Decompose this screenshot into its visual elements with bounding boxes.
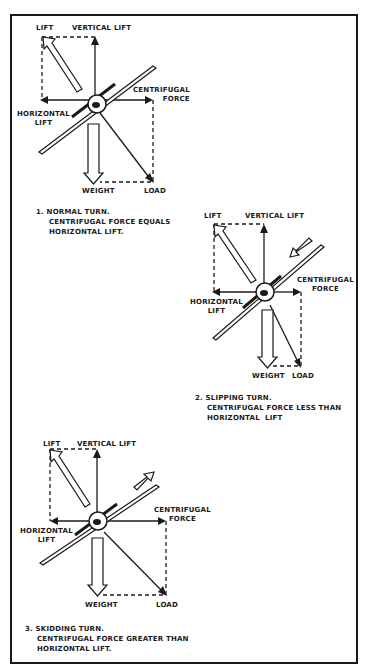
caption-skidding-turn-line2: CENTRIFUGAL FORCE GREATER THAN bbox=[37, 635, 189, 645]
caption-skidding-turn: 3. SKIDDING TURN. bbox=[25, 625, 104, 635]
centrifugal-force-label: CENTRIFUGAL FORCE bbox=[154, 506, 211, 524]
horizontal-lift-label: HORIZONTAL LIFT bbox=[20, 527, 73, 545]
lift-label: LIFT bbox=[43, 440, 60, 449]
load-label: LOAD bbox=[156, 601, 178, 610]
weight-label: WEIGHT bbox=[85, 601, 118, 610]
skidding-turn-force-vectors bbox=[0, 0, 370, 672]
caption-skidding-turn-line3: HORIZONTAL LIFT. bbox=[37, 645, 112, 655]
vertical-lift-label: VERTICAL LIFT bbox=[77, 440, 136, 449]
